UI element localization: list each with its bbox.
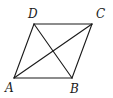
vertex-label-b: B <box>70 83 79 95</box>
diagonal-bd <box>34 24 72 78</box>
side-da <box>14 24 34 78</box>
side-bc <box>72 24 92 78</box>
vertex-label-d: D <box>28 8 38 20</box>
vertex-label-c: C <box>96 8 105 20</box>
vertex-label-a: A <box>5 82 14 94</box>
parallelogram-figure: D C A B <box>0 0 113 98</box>
